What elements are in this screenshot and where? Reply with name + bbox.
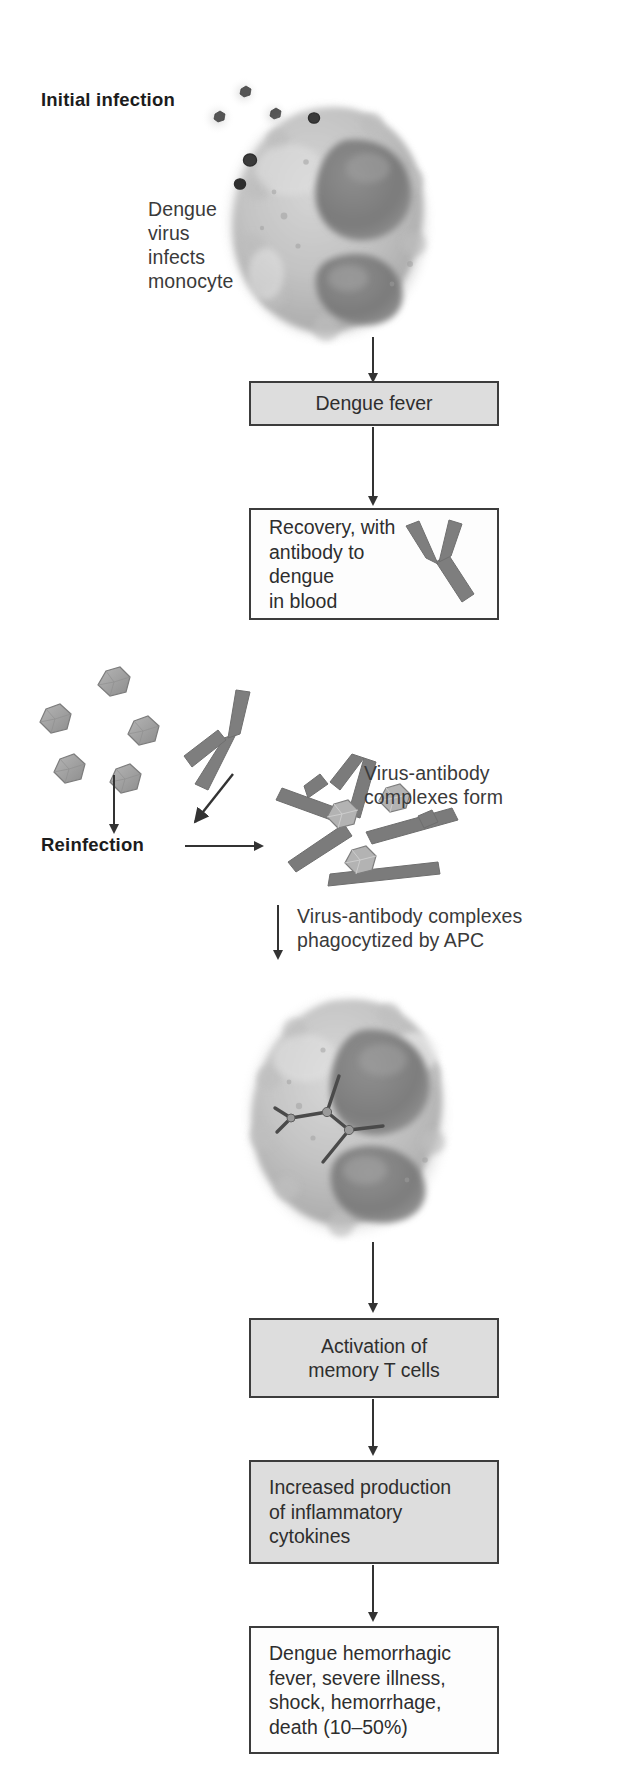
box-recovery-text: Recovery, with antibody to dengue in blo…: [269, 515, 395, 613]
initial-infection-heading: Initial infection: [41, 88, 175, 112]
reinfection-heading: Reinfection: [41, 833, 144, 857]
box-cytokines-text: Increased production of inflammatory cyt…: [269, 1475, 451, 1549]
arrow-antibody-to-reinfection: [185, 772, 255, 834]
antibody-in-blood-icon: [394, 518, 490, 610]
box-dhf-text: Dengue hemorrhagic fever, severe illness…: [269, 1641, 451, 1739]
box-dengue-hemorrhagic-fever: Dengue hemorrhagic fever, severe illness…: [249, 1626, 499, 1754]
arrow-cytokines-to-dhf: [372, 1565, 374, 1613]
arrow-dengue-fever-to-recovery: [372, 427, 374, 497]
monocyte-cell: [222, 96, 438, 344]
apc-cell: [243, 990, 453, 1240]
arrow-apc-to-activation: [372, 1242, 374, 1304]
arrow-reinfection-to-complexes: [185, 845, 255, 847]
arrow-activation-to-cytokines: [372, 1399, 374, 1447]
box-activation-memory-t-cells: Activation of memory T cells: [249, 1318, 499, 1398]
box-dengue-fever: Dengue fever: [249, 381, 499, 426]
box-dengue-fever-text: Dengue fever: [315, 391, 432, 416]
virus-infects-monocyte-label: Dengue virus infects monocyte: [148, 197, 233, 293]
box-activation-text: Activation of memory T cells: [308, 1334, 439, 1383]
complexes-form-label: Virus-antibody complexes form: [364, 761, 503, 809]
arrow-complexes-to-apc: [277, 905, 279, 951]
phagocytized-by-apc-label: Virus-antibody complexes phagocytized by…: [297, 904, 522, 952]
arrow-virions-to-reinfection: [113, 775, 115, 825]
arrow-monocyte-to-dengue-fever: [372, 337, 374, 374]
box-inflammatory-cytokines: Increased production of inflammatory cyt…: [249, 1460, 499, 1564]
dengue-pathogenesis-diagram: Initial infection: [0, 0, 626, 1778]
